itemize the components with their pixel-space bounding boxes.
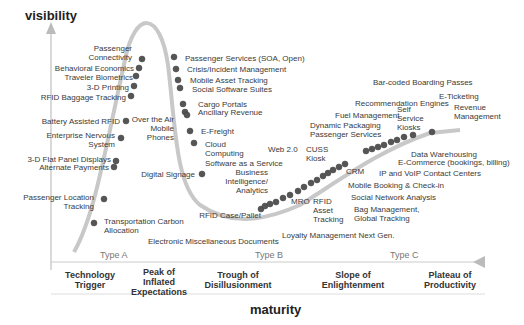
tech-label: Social Network Analysis <box>351 193 436 202</box>
tech-label: RFID Case/Pallet <box>199 211 261 220</box>
tech-label: Business Intelligence/ Analytics <box>213 168 268 195</box>
tech-label: Passenger Connectivity <box>52 44 132 62</box>
tech-label: Mobile Booking & Check-in <box>348 181 444 190</box>
tech-label: CUSS Kiosk <box>306 145 334 163</box>
tech-label: E-Commerce (bookings, billing) <box>398 158 510 167</box>
type-a-label: Type A <box>100 250 128 260</box>
tech-label: Loyalty Management Next Gen. <box>282 231 395 240</box>
tech-label: Social Software Suites <box>192 85 272 94</box>
x-axis-label: maturity <box>250 302 301 317</box>
tech-label: Alternate Payments <box>39 163 109 172</box>
tech-label: E-Freight <box>201 127 234 136</box>
tech-label: Cloud Computing <box>205 140 250 158</box>
phase-trough: Trough of Disillusionment <box>198 270 278 290</box>
tech-label: Battery Assisted RFID <box>42 117 120 126</box>
tech-label: RFID Baggage Tracking <box>41 93 126 102</box>
phase-peak: Peak of Inflated Expectations <box>128 267 190 297</box>
tech-label: 3-D Printing <box>87 83 129 92</box>
tech-label: Mobile Asset Tracking <box>190 76 268 85</box>
tech-label: Fuel Management <box>335 111 399 120</box>
tech-label: Revenue Management <box>454 103 514 121</box>
type-b-label: Type B <box>255 250 283 260</box>
tech-label: Traveler Biometrics <box>64 73 133 82</box>
tech-label: Bag Management, Global Tracking <box>354 205 434 223</box>
tech-label: Digital Signage <box>141 170 195 179</box>
tech-label: Passenger Services (SOA, Open) <box>185 54 305 63</box>
tech-label: CRM <box>346 167 364 176</box>
tech-label: Web 2.0 <box>268 145 298 154</box>
tech-label: Bar-coded Boarding Passes <box>373 78 473 87</box>
phase-plateau: Plateau of Productivity <box>420 270 480 290</box>
phase-technology-trigger: Technology Trigger <box>60 270 120 290</box>
y-axis-label: visibility <box>25 8 77 23</box>
phase-slope: Slope of Enlightenment <box>318 270 388 290</box>
tech-label: E-Ticketing <box>439 92 479 101</box>
tech-label: Electronic Miscellaneous Documents <box>148 237 279 246</box>
tech-label: Behavioral Economics <box>55 64 134 73</box>
tech-label: IP and VoIP Contact Centers <box>379 169 481 178</box>
tech-label: Dynamic Packaging Passenger Services <box>310 121 390 139</box>
tech-label: MRO <box>291 197 310 206</box>
tech-label: RFID Asset Tracking <box>313 197 343 224</box>
type-c-label: Type C <box>390 250 419 260</box>
tech-label: Crisis/Incident Management <box>187 65 286 74</box>
tech-label: Enterprise Nervous System <box>40 131 115 149</box>
tech-label: Transportation Carbon Allocation <box>104 217 184 235</box>
tech-label: Ancillary Revenue <box>198 108 262 117</box>
tech-label: Software as a Service <box>205 159 283 168</box>
tech-label: Passenger Location Tracking <box>14 193 94 211</box>
tech-label: Over the Air Mobile Phones <box>124 115 174 142</box>
tech-label: Self Service Kiosks <box>397 105 427 132</box>
